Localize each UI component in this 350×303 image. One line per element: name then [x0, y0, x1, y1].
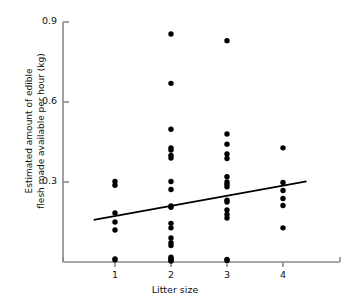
plot-canvas — [0, 0, 350, 303]
data-point — [224, 131, 229, 136]
data-point — [168, 187, 173, 192]
scatter-chart-figure: Estimated amount of edible flesh made av… — [0, 0, 350, 303]
x-tick-label-1: 1 — [105, 269, 125, 280]
data-point — [168, 205, 173, 210]
data-point — [168, 155, 173, 160]
y-tick-label-0.3: 0.3 — [23, 175, 57, 186]
data-point — [280, 180, 285, 185]
data-point — [112, 257, 117, 262]
data-points-layer — [112, 31, 285, 263]
y-tick-label-0.6: 0.6 — [23, 95, 57, 106]
data-point — [224, 199, 229, 204]
x-axis-label: Litter size — [0, 284, 350, 295]
data-point — [168, 225, 173, 230]
data-point — [224, 258, 229, 263]
x-tick-label-2: 2 — [161, 269, 181, 280]
data-point — [224, 215, 229, 220]
data-point — [112, 219, 117, 224]
data-point — [280, 145, 285, 150]
trendline-layer — [94, 181, 307, 219]
data-point — [280, 196, 285, 201]
data-point — [224, 156, 229, 161]
x-tick-label-4: 4 — [273, 269, 293, 280]
data-point — [168, 258, 173, 263]
data-point — [168, 81, 173, 86]
data-point — [280, 203, 285, 208]
data-point — [224, 184, 229, 189]
data-point — [168, 127, 173, 132]
data-point — [168, 31, 173, 36]
data-point — [224, 38, 229, 43]
data-point — [112, 210, 117, 215]
data-point — [168, 235, 173, 240]
data-point — [168, 243, 173, 248]
data-point — [168, 179, 173, 184]
data-point — [112, 227, 117, 232]
regression-trendline — [94, 181, 307, 219]
data-point — [224, 141, 229, 146]
y-tick-label-0.9: 0.9 — [23, 15, 57, 26]
data-point — [168, 147, 173, 152]
data-point — [112, 183, 117, 188]
data-point — [224, 174, 229, 179]
data-point — [280, 225, 285, 230]
x-tick-label-3: 3 — [217, 269, 237, 280]
axes-layer — [63, 22, 340, 267]
data-point — [280, 188, 285, 193]
